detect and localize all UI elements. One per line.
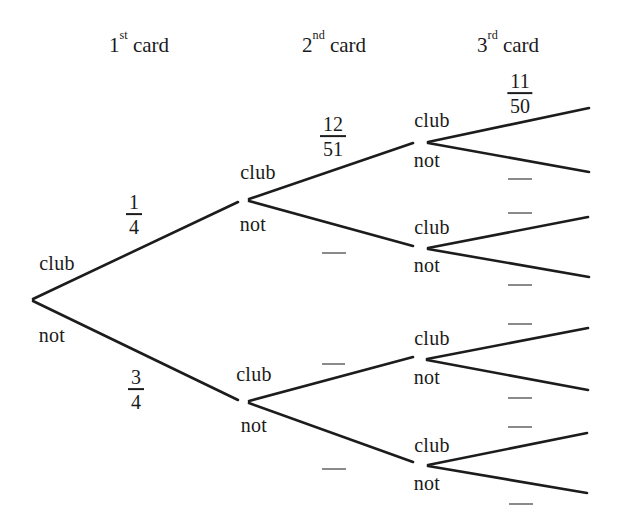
fraction-numerator: 3 xyxy=(128,367,144,390)
column-header-1st-card: 1stcard xyxy=(109,33,169,58)
probability-tree-diagram: 1stcard 2ndcard 3rdcard club not club no… xyxy=(0,0,620,530)
branch-3rd-not-after-not-not xyxy=(428,466,587,493)
branch-3rd-club-after-not-club xyxy=(427,328,588,359)
header-ordinal: 3 xyxy=(477,33,488,57)
branch-3rd-not-after-not-club xyxy=(427,360,588,390)
header-suffix: st xyxy=(119,27,128,41)
header-word: card xyxy=(133,33,169,57)
after-club-not-not-label: not xyxy=(414,254,440,277)
column-header-2nd-card: 2ndcard xyxy=(302,33,366,58)
branch-3rd-not-after-club-club xyxy=(428,143,589,172)
fraction-numerator: 11 xyxy=(507,71,532,94)
column-header-3rd-card: 3rdcard xyxy=(477,33,539,58)
fraction-denominator: 50 xyxy=(510,95,530,117)
root-club-label: club xyxy=(39,252,75,275)
fraction-numerator: 1 xyxy=(126,192,142,215)
after-club-club-club-label: club xyxy=(414,109,450,132)
fraction-numerator: 12 xyxy=(320,114,346,137)
after-not-club-not-label: not xyxy=(414,366,440,389)
probability-second-club-after-club: 12 51 xyxy=(320,114,346,160)
header-suffix: nd xyxy=(312,27,325,41)
branch-3rd-club-after-club-not xyxy=(428,217,588,248)
header-word: card xyxy=(503,33,539,57)
after-not-club-label: club xyxy=(236,363,272,386)
header-word: card xyxy=(330,33,366,57)
header-suffix: rd xyxy=(487,27,498,41)
fraction-denominator: 4 xyxy=(129,216,139,238)
after-not-not-label: not xyxy=(241,414,267,437)
after-club-club-label: club xyxy=(240,161,276,184)
after-not-not-not-label: not xyxy=(414,472,440,495)
after-club-club-not-label: not xyxy=(414,149,440,172)
branch-2nd-not-after-not xyxy=(249,403,413,462)
probability-third-club-after-club-club: 11 50 xyxy=(507,71,532,117)
root-not-label: not xyxy=(39,324,65,347)
branch-3rd-not-after-club-not xyxy=(428,249,589,277)
after-not-not-club-label: club xyxy=(414,434,450,457)
branch-3rd-club-after-not-not xyxy=(428,433,587,465)
header-ordinal: 2 xyxy=(302,33,313,57)
fraction-denominator: 4 xyxy=(131,391,141,413)
branch-2nd-not-after-club xyxy=(249,201,413,246)
after-not-club-club-label: club xyxy=(414,327,450,350)
after-club-not-label: not xyxy=(240,213,266,236)
probability-first-club: 1 4 xyxy=(126,192,142,238)
fraction-denominator: 51 xyxy=(323,138,343,160)
header-ordinal: 1 xyxy=(109,33,120,57)
probability-first-not: 3 4 xyxy=(128,367,144,413)
after-club-not-club-label: club xyxy=(414,216,450,239)
